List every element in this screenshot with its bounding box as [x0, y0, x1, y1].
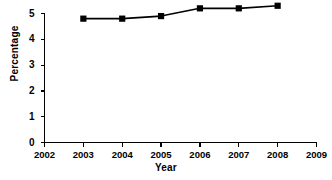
axes [45, 13, 317, 143]
data-series [80, 3, 280, 22]
data-point-marker [158, 13, 164, 19]
data-point-marker [275, 3, 281, 9]
data-point-marker [197, 5, 203, 11]
data-point-marker [80, 16, 86, 22]
plot-area [0, 0, 332, 180]
series-line [83, 6, 277, 19]
data-point-marker [236, 5, 242, 11]
data-point-marker [119, 16, 125, 22]
x-axis-ticks [45, 143, 317, 147]
line-chart: Percentage Year 012345 20022003200420052… [0, 0, 332, 180]
